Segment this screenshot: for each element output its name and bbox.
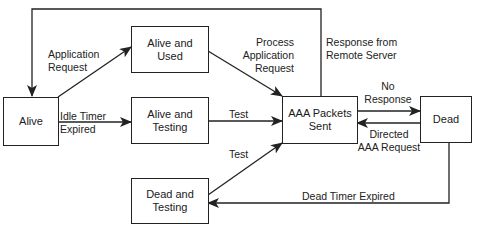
label-process-application-request: Process Application Request xyxy=(225,36,294,75)
label-idle-timer-expired: Idle Timer Expired xyxy=(60,110,106,136)
state-alive-and-used: Alive and Used xyxy=(131,26,209,73)
label-test-dead-testing: Test xyxy=(229,148,248,161)
label-response-from-remote-server: Response from Remote Server xyxy=(326,36,397,62)
label-no-response: No Response xyxy=(360,80,416,106)
label-dead-timer-expired: Dead Timer Expired xyxy=(302,190,395,203)
state-dead-and-testing: Dead and Testing xyxy=(131,178,209,224)
state-alive-and-testing: Alive and Testing xyxy=(131,97,209,144)
label-directed-aaa-request: Directed AAA Request xyxy=(355,128,423,154)
label-application-request: Application Request xyxy=(48,48,99,74)
label-test-alive-testing: Test xyxy=(229,108,248,121)
state-aaa-packets-sent: AAA Packets Sent xyxy=(282,96,358,144)
state-dead: Dead xyxy=(420,96,472,143)
state-alive: Alive xyxy=(3,97,59,146)
